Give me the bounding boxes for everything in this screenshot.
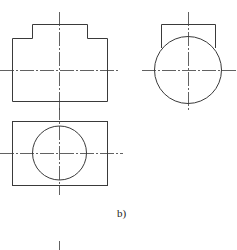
technical-drawing: b) — [0, 0, 237, 250]
front-view — [0, 12, 120, 110]
side-view — [142, 12, 237, 110]
side-view-circle — [155, 37, 222, 104]
top-view — [0, 106, 123, 195]
front-view-outline — [13, 25, 108, 102]
figure-label: b) — [117, 207, 127, 220]
